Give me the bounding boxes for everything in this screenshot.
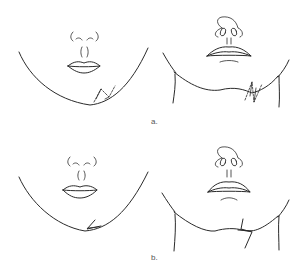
philtrum-icon bbox=[78, 171, 85, 180]
columella-icon bbox=[227, 170, 231, 177]
panel-a-frontal-chin bbox=[19, 32, 148, 105]
nose-left-ala-icon bbox=[71, 32, 73, 41]
z-plasty-repair-fill-icon bbox=[238, 230, 252, 231]
panel-a-label: a. bbox=[151, 117, 158, 126]
nose-tip-icon bbox=[215, 147, 242, 167]
z-plasty-repair-icon bbox=[241, 219, 252, 248]
columella-icon bbox=[227, 38, 231, 44]
lips-icon bbox=[63, 186, 97, 198]
nostril-right-icon bbox=[230, 27, 237, 36]
z-plasty-repair-fill-icon bbox=[88, 227, 98, 228]
nose-left-nostril-icon bbox=[76, 38, 82, 40]
nose-right-ala-icon bbox=[96, 32, 98, 41]
face-left-edge-icon bbox=[162, 193, 175, 212]
z-plasty-diagram: a. bbox=[0, 0, 301, 277]
nose-tip-icon bbox=[215, 17, 242, 37]
neck-left-icon bbox=[173, 74, 175, 103]
z-plasty-incision-icon bbox=[94, 86, 115, 102]
jawline-icon bbox=[19, 172, 148, 231]
panel-b: b. bbox=[19, 147, 289, 262]
nostril-right-icon bbox=[230, 157, 237, 166]
nose-right-nostril-icon bbox=[87, 38, 93, 40]
panel-a: a. bbox=[19, 17, 289, 126]
lips-icon bbox=[68, 62, 100, 73]
nose-left-nostril-icon bbox=[73, 163, 79, 165]
face-left-edge-icon bbox=[163, 53, 176, 73]
jawline-icon bbox=[174, 72, 278, 93]
neck-left-icon bbox=[174, 214, 175, 251]
face-right-edge-icon bbox=[278, 60, 289, 77]
chin-crease-icon bbox=[220, 61, 238, 63]
lips-icon bbox=[208, 182, 250, 192]
nose-left-ala-icon bbox=[68, 157, 70, 166]
lips-icon bbox=[207, 47, 251, 56]
nose-right-nostril-icon bbox=[84, 163, 90, 165]
nose-right-ala-icon bbox=[94, 157, 96, 166]
z-plasty-incision-icon bbox=[245, 82, 262, 102]
panel-b-label: b. bbox=[151, 253, 158, 262]
face-right-edge-icon bbox=[278, 200, 289, 217]
chin-crease-icon bbox=[221, 198, 237, 200]
panel-b-frontal-chin bbox=[19, 157, 148, 231]
philtrum-icon bbox=[81, 47, 88, 57]
jawline-icon bbox=[19, 48, 148, 105]
panel-a-submental-neck bbox=[163, 17, 289, 107]
panel-b-submental-neck bbox=[162, 147, 289, 251]
jawline-icon bbox=[174, 212, 278, 231]
